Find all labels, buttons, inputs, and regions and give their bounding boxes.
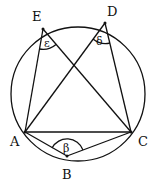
label-D: D <box>107 4 117 19</box>
label-E: E <box>32 9 42 24</box>
angle-label-beta: β <box>63 142 69 155</box>
segment-DC <box>105 23 131 132</box>
label-A: A <box>9 134 20 149</box>
angle-label-delta: δ <box>96 35 103 48</box>
segment-EC <box>43 29 131 132</box>
segment-BC <box>67 132 131 156</box>
label-C: C <box>138 134 148 149</box>
angle-label-epsilon: ε <box>44 37 50 50</box>
point-D <box>104 22 107 25</box>
inscribed-angles-diagram: E D A C B ε δ β <box>0 0 156 183</box>
point-C <box>130 131 133 134</box>
point-E <box>42 28 45 31</box>
label-B: B <box>62 167 72 182</box>
segment-AE <box>25 29 43 132</box>
point-A <box>24 131 27 134</box>
